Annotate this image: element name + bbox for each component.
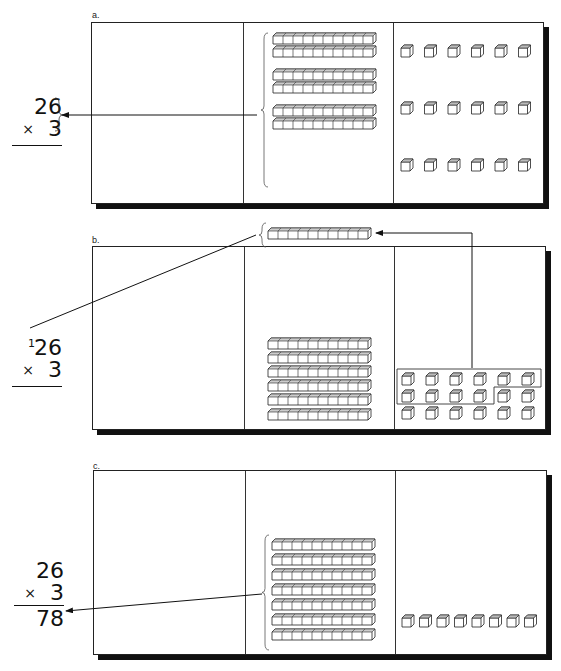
panel-c-multiplier: 3 [50,580,64,605]
panel-b-multiplier: 3 [48,357,62,382]
panel-b-problem: 126 ×3 [12,333,62,387]
panel-a-frame [91,22,544,204]
panel-b-divider-ones [394,247,395,429]
panel-b-divider-tens [244,247,245,429]
panel-c-multiplier-row: ×3 [14,582,64,604]
times-sign: × [22,362,34,378]
panel-c-multiplicand: 26 [14,560,64,582]
times-sign: × [22,121,34,137]
panel-a-divider-tens [243,23,244,203]
panel-a-problem: 26 ×3 [12,96,62,146]
panel-a-divider-ones [393,23,394,203]
panel-b-multiplier-row: ×3 [12,359,62,381]
panel-a-multiplier-row: ×3 [12,118,62,140]
panel-b-frame [92,246,546,430]
panel-c-product: 78 [14,608,64,630]
panel-c-divider-tens [245,471,246,654]
panel-b-sum-line [12,386,62,387]
panel-a-sum-line [12,145,62,146]
panel-c-frame [93,470,547,655]
panel-b-label: b. [92,235,100,245]
panel-a-multiplier: 3 [48,116,62,141]
panel-a-multiplicand: 26 [12,96,62,118]
times-sign: × [24,585,36,601]
panel-c-divider-ones [395,471,396,654]
panel-c-problem: 26 ×3 78 [14,560,64,630]
panel-b-multiplicand-row: 126 [12,333,62,359]
panel-a-label: a. [92,10,100,20]
